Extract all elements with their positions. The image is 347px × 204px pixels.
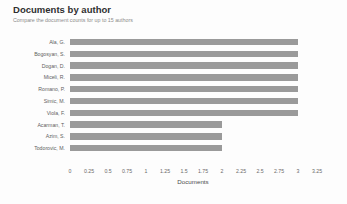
bar bbox=[70, 145, 222, 151]
bar bbox=[70, 98, 298, 104]
bar-row bbox=[70, 62, 317, 68]
x-tick-label: 0.5 bbox=[104, 168, 111, 175]
x-tick-label: 1.5 bbox=[180, 168, 187, 175]
y-tick-label: Viola, F. bbox=[47, 110, 65, 116]
plot-area bbox=[70, 36, 317, 166]
bar-row bbox=[70, 74, 317, 80]
bar-row bbox=[70, 121, 317, 127]
x-axis: Documents 00.250.50.7511.251.51.7522.252… bbox=[0, 166, 347, 204]
chart-page: Documents by author Compare the document… bbox=[0, 0, 347, 204]
chart-plot-wrapper: Ala, G.Bogosyan, S.Dogan, D.Miceli, R.Ro… bbox=[0, 36, 347, 204]
y-tick-label: Romano, P. bbox=[38, 86, 65, 92]
y-tick-label: Miceli, R. bbox=[44, 74, 65, 80]
bar-row bbox=[70, 133, 317, 139]
y-tick-label: Bogosyan, S. bbox=[34, 51, 65, 57]
bar bbox=[70, 133, 222, 139]
bar-row bbox=[70, 86, 317, 92]
x-tick-label: 0 bbox=[69, 168, 72, 175]
x-tick-label: 1.75 bbox=[198, 168, 208, 175]
x-tick-label: 1 bbox=[145, 168, 148, 175]
x-tick-label: 3 bbox=[297, 168, 300, 175]
y-tick-label: Azim, S. bbox=[46, 133, 65, 139]
y-tick-label: Todorovic, M. bbox=[34, 145, 65, 151]
bar bbox=[70, 74, 298, 80]
x-tick-label: 2.25 bbox=[236, 168, 246, 175]
bar bbox=[70, 51, 298, 57]
bar-row bbox=[70, 51, 317, 57]
bar-row bbox=[70, 39, 317, 45]
y-tick-label: Simic, M. bbox=[44, 98, 65, 104]
bar bbox=[70, 62, 298, 68]
x-tick-label: 1.25 bbox=[160, 168, 170, 175]
bar-row bbox=[70, 110, 317, 116]
x-tick-label: 0.25 bbox=[84, 168, 94, 175]
page-title: Documents by author bbox=[13, 4, 313, 15]
x-tick-label: 2.75 bbox=[274, 168, 284, 175]
x-tick-label: 2 bbox=[221, 168, 224, 175]
y-axis-labels: Ala, G.Bogosyan, S.Dogan, D.Miceli, R.Ro… bbox=[0, 36, 68, 166]
x-tick-label: 3.25 bbox=[312, 168, 322, 175]
bar bbox=[70, 110, 298, 116]
bar-row bbox=[70, 145, 317, 151]
bar bbox=[70, 121, 222, 127]
bar bbox=[70, 86, 298, 92]
x-axis-title: Documents bbox=[177, 178, 208, 185]
chart-header: Documents by author Compare the document… bbox=[13, 4, 313, 24]
y-tick-label: Dogan, D. bbox=[42, 63, 65, 69]
chart-subtitle: Compare the document counts for up to 15… bbox=[13, 16, 313, 24]
y-tick-label: Acarman, T. bbox=[37, 122, 65, 128]
bar-row bbox=[70, 98, 317, 104]
y-tick-label: Ala, G. bbox=[49, 39, 65, 45]
x-tick-label: 2.5 bbox=[256, 168, 263, 175]
bar bbox=[70, 39, 298, 45]
x-tick-label: 0.75 bbox=[122, 168, 132, 175]
